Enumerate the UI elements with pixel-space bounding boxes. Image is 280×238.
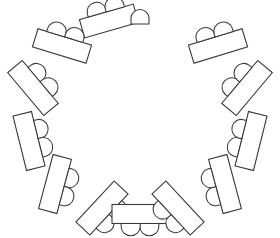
table-unit[interactable]: [8, 53, 68, 116]
chair-icon[interactable]: [140, 224, 159, 236]
table-unit[interactable]: [13, 109, 57, 171]
table-unit[interactable]: [39, 154, 84, 216]
table-unit[interactable]: [197, 154, 242, 216]
tables-group: [8, 0, 273, 238]
table-unit[interactable]: [76, 0, 138, 38]
floor-plan-canvas: [0, 0, 280, 238]
seating-layout-diagram: [0, 0, 280, 238]
chair-icon[interactable]: [121, 224, 140, 236]
chair-icon[interactable]: [131, 10, 149, 24]
table-unit[interactable]: [185, 17, 248, 63]
table-unit[interactable]: [223, 109, 267, 171]
table-unit[interactable]: [212, 53, 272, 116]
standalone-chair-group: [131, 10, 149, 24]
standalone-chair[interactable]: [131, 10, 149, 24]
